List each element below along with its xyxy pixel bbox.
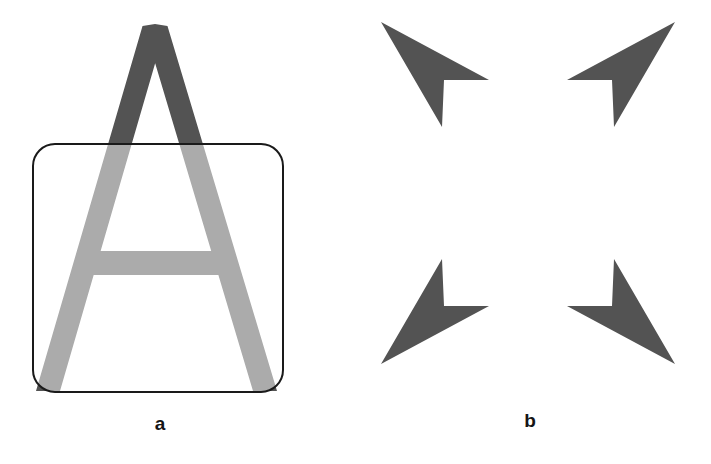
panel-label-a: a	[130, 413, 190, 435]
panel-b: b	[355, 0, 711, 464]
arrow-bottom-right	[567, 259, 675, 364]
panel-a-canvas	[0, 0, 355, 464]
letter-a-lower-light-part	[36, 24, 277, 391]
figure-root: a b	[0, 0, 711, 464]
arrow-bottom-left	[381, 259, 489, 364]
arrow-top-right	[567, 22, 675, 127]
arrow-top-left	[381, 22, 489, 127]
panel-a: a	[0, 0, 355, 464]
panel-b-canvas	[355, 0, 711, 464]
panel-label-b: b	[500, 410, 560, 432]
